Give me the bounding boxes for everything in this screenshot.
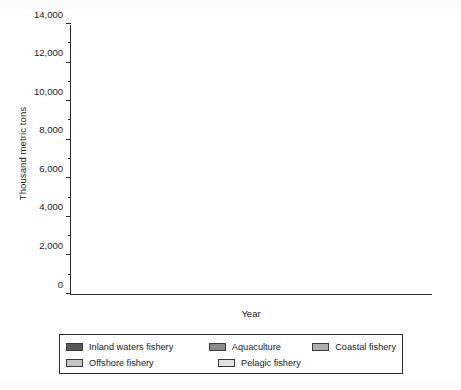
legend-row: Inland waters fishery Aquaculture Coasta… [66, 339, 396, 355]
y-tick-label: 8,000 [39, 124, 63, 135]
legend-item-inland-waters-fishery[interactable]: Inland waters fishery [66, 342, 209, 352]
y-tick-minor [68, 197, 71, 198]
y-tick-minor [68, 274, 71, 275]
y-tick-label: 4,000 [39, 201, 63, 212]
y-tick-minor [68, 42, 71, 43]
y-tick-label: 12,000 [34, 47, 63, 58]
legend-label: Coastal fishery [335, 342, 396, 352]
legend-label: Inland waters fishery [89, 342, 173, 352]
legend-swatch-icon [218, 359, 235, 367]
y-tick-label: 10,000 [34, 85, 63, 96]
y-tick-major [66, 62, 71, 63]
legend-label: Offshore fishery [89, 358, 154, 368]
y-axis-title: Thousand metric tons [17, 54, 28, 254]
legend-swatch-icon [66, 359, 83, 367]
y-tick-minor [68, 158, 71, 159]
plot-area-wrapper: Thousand metric tons 02,0004,0006,0008,0… [0, 0, 461, 330]
y-tick-minor [68, 81, 71, 82]
y-tick-minor [68, 235, 71, 236]
figure: Thousand metric tons 02,0004,0006,0008,0… [0, 0, 461, 390]
legend-swatch-icon [209, 343, 226, 351]
y-tick-major [66, 216, 71, 217]
y-tick-major [66, 293, 71, 294]
y-tick-label: 2,000 [39, 239, 63, 250]
legend-label: Pelagic fishery [241, 358, 301, 368]
y-tick-major [66, 139, 71, 140]
y-tick-major [66, 254, 71, 255]
y-tick-label: 0 [58, 278, 63, 289]
legend-item-pelagic-fishery[interactable]: Pelagic fishery [218, 358, 328, 368]
legend-item-aquaculture[interactable]: Aquaculture [209, 342, 312, 352]
y-tick-major [66, 100, 71, 101]
legend-label: Aquaculture [232, 342, 281, 352]
legend-item-coastal-fishery[interactable]: Coastal fishery [312, 342, 396, 352]
legend: Inland waters fishery Aquaculture Coasta… [59, 334, 403, 374]
legend-swatch-icon [312, 343, 329, 351]
plot-area: 02,0004,0006,0008,00010,00012,00014,000 [70, 25, 432, 295]
legend-swatch-icon [66, 343, 83, 351]
y-tick-label: 6,000 [39, 162, 63, 173]
y-tick-minor [68, 119, 71, 120]
x-axis-title: Year [70, 308, 432, 319]
y-tick-label: 14,000 [34, 8, 63, 19]
scan-edge-bottom [0, 381, 461, 390]
y-tick-major [66, 23, 71, 24]
legend-item-offshore-fishery[interactable]: Offshore fishery [66, 358, 218, 368]
y-tick-major [66, 177, 71, 178]
legend-row: Offshore fishery Pelagic fishery [66, 355, 396, 371]
